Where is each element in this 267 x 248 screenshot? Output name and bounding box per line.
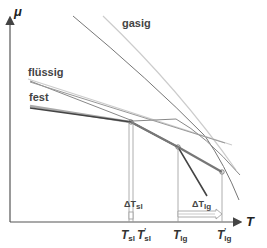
solid-phase-lines — [30, 106, 222, 196]
combined-equilibrium-line — [131, 122, 222, 172]
tick-t-lg: Tlg — [173, 228, 188, 243]
x-axis-label: T — [246, 214, 255, 229]
tick-t-sl-prime: T'sl — [137, 226, 151, 243]
liquid-phase-lines — [28, 79, 240, 175]
chemical-potential-diagram: μ T gasig flüssig fest ΔTsl ΔTlg Tsl T's… — [0, 0, 267, 248]
solid-phase-label: fest — [29, 91, 49, 103]
delta-sl-arrow — [129, 212, 133, 219]
gas-line-shifted — [103, 16, 236, 170]
tick-t-lg-prime: T'lg — [217, 226, 231, 243]
delta-lg-label: ΔTlg — [192, 199, 211, 211]
tick-t-sl: Tsl — [121, 228, 135, 243]
gas-phase-lines — [73, 16, 239, 200]
liquid-line — [30, 81, 240, 175]
gas-line — [73, 16, 239, 200]
gas-phase-label: gasig — [122, 17, 151, 29]
liquid-phase-label: flüssig — [28, 66, 63, 78]
y-axis-label: μ — [13, 4, 22, 19]
